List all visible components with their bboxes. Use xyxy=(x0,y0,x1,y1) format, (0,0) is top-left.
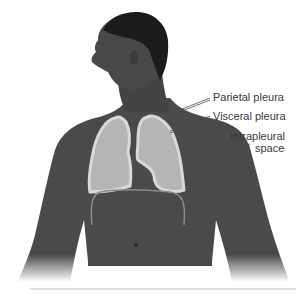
label-parietal-pleura: Parietal pleura xyxy=(213,92,284,103)
label-intrapleural: Intrapleural xyxy=(230,131,285,142)
label-space: space xyxy=(255,143,284,154)
label-visceral-pleura: Visceral pleura xyxy=(213,111,286,122)
navel xyxy=(135,243,138,247)
